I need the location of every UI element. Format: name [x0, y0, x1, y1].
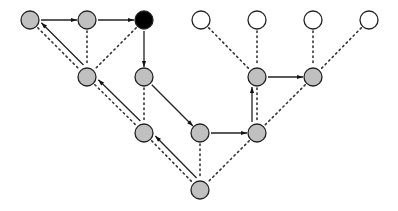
tree-edge-N-O: [208, 141, 249, 182]
node-L-visited: [135, 124, 153, 142]
node-H-visited: [78, 68, 96, 86]
node-N-visited: [248, 124, 266, 142]
tree-edge-L-O: [152, 141, 193, 182]
tree-edge-D-J: [209, 28, 250, 69]
tree-edge-C-H: [95, 28, 136, 69]
tree-edge-K-N: [265, 85, 305, 125]
node-I-visited: [135, 68, 153, 86]
arrow-I-to-M: [152, 85, 193, 126]
node-J-visited: [248, 68, 266, 86]
node-K-visited: [304, 68, 322, 86]
node-O-visited: [191, 181, 209, 199]
node-C-current: [135, 11, 153, 29]
node-G-unvisited: [360, 11, 378, 29]
tree-edge-H-L: [95, 85, 136, 126]
node-M-visited: [191, 124, 209, 142]
arrow-H-to-A: [41, 23, 83, 65]
tree-edges: [38, 28, 362, 182]
node-E-unvisited: [248, 11, 266, 29]
tree-edge-A-H: [38, 28, 79, 69]
node-B-visited: [78, 11, 96, 29]
arrow-O-to-L: [155, 136, 196, 178]
traversal-arrows: [41, 20, 303, 178]
node-F-unvisited: [304, 11, 322, 29]
arrow-L-to-H: [98, 80, 140, 121]
tree-traversal-diagram: [0, 0, 398, 211]
tree-edge-G-K: [321, 28, 362, 69]
node-D-unvisited: [192, 11, 210, 29]
node-A-visited: [21, 11, 39, 29]
